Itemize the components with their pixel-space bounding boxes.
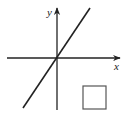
answer-box[interactable]: [83, 86, 106, 109]
x-axis-label: x: [113, 60, 119, 72]
y-axis-label: y: [46, 6, 52, 18]
coordinate-diagram: x y: [0, 0, 131, 115]
